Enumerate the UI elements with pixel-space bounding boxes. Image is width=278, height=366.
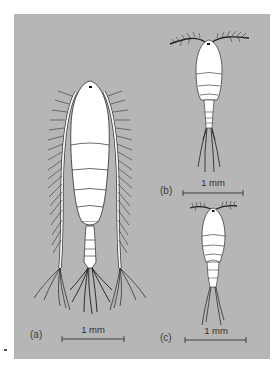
copepod-b xyxy=(170,31,249,172)
copepod-a xyxy=(34,81,146,314)
scale-label-c: 1 mm xyxy=(186,326,246,336)
scale-label-a: 1 mm xyxy=(63,325,123,335)
panel-label-b: (b) xyxy=(160,186,172,196)
panel-label-c: (c) xyxy=(160,333,172,343)
scale-label-b: 1 mm xyxy=(183,178,243,188)
copepod-c xyxy=(190,201,237,325)
panel-label-a: (a) xyxy=(30,330,42,340)
margin-mark xyxy=(4,349,7,351)
